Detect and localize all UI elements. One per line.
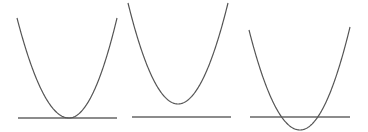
parabola-curve (17, 18, 117, 118)
parabola-curve (249, 27, 350, 130)
parabola-curve (128, 3, 228, 104)
panel-one-root (17, 18, 117, 118)
panel-no-real-roots (128, 3, 231, 117)
panel-two-roots (249, 27, 350, 130)
parabola-diagram (0, 0, 368, 132)
